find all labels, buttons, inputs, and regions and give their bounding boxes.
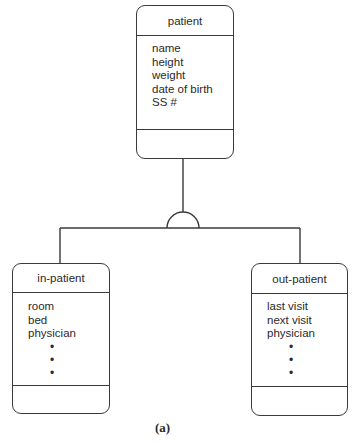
ellipsis-dot: •: [267, 341, 347, 354]
figure-caption: (a): [155, 420, 170, 436]
attribute-ss-number: SS #: [152, 96, 233, 110]
in-patient-attributes: room bed physician • • •: [13, 293, 109, 386]
attribute-physician: physician: [267, 327, 347, 341]
ellipsis-dot: •: [28, 367, 109, 380]
attribute-date-of-birth: date of birth: [152, 83, 233, 97]
patient-class-box: patient name height weight date of birth…: [136, 5, 234, 159]
ellipsis-dot: •: [267, 367, 347, 380]
ellipsis-dot: •: [28, 341, 109, 354]
patient-attributes: name height weight date of birth SS #: [137, 36, 233, 130]
attribute-name: name: [152, 42, 233, 56]
attribute-next-visit: next visit: [267, 314, 347, 328]
attribute-physician: physician: [28, 327, 109, 341]
in-patient-class-box: in-patient room bed physician • • •: [12, 263, 110, 414]
ellipsis-dot: •: [267, 354, 347, 367]
out-patient-class-box: out-patient last visit next visit physic…: [251, 263, 348, 416]
attribute-bed: bed: [28, 314, 109, 328]
ellipsis-dot: •: [28, 354, 109, 367]
diagram-canvas: patient name height weight date of birth…: [0, 0, 360, 443]
attribute-room: room: [28, 300, 109, 314]
patient-class-name: patient: [137, 6, 233, 36]
in-patient-class-name: in-patient: [13, 264, 109, 293]
out-patient-attributes: last visit next visit physician • • •: [252, 294, 347, 387]
attribute-last-visit: last visit: [267, 300, 347, 314]
attribute-weight: weight: [152, 69, 233, 83]
attribute-height: height: [152, 56, 233, 70]
out-patient-class-name: out-patient: [252, 264, 347, 294]
inheritance-semicircle-icon: [167, 212, 199, 228]
